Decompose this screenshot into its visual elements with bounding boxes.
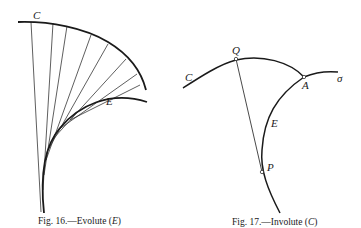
label-e: E [270, 117, 278, 129]
point-p [260, 170, 263, 173]
tangent-line-qp [236, 59, 262, 172]
label-c: C [185, 71, 193, 83]
caption-fig17: Fig. 17.—Involute (C) [232, 217, 318, 228]
point-q [234, 57, 237, 60]
curve-c [18, 22, 146, 90]
normal-lines [31, 22, 140, 212]
curve-e-sigma [262, 72, 338, 213]
label-q: Q [232, 44, 240, 56]
label-a: A [301, 79, 309, 91]
figure-canvas: C E Fig. 16.—Evolute (E) Q C A σ E P Fig… [0, 0, 361, 228]
label-e: E [105, 95, 113, 107]
figure-16-evolute: C E Fig. 16.—Evolute (E) [18, 9, 147, 227]
figure-17-involute: Q C A σ E P Fig. 17.—Involute (C) [183, 44, 343, 228]
label-p: P [266, 161, 274, 173]
curve-e-evolute [43, 98, 147, 213]
label-sigma: σ [337, 72, 343, 84]
caption-fig16: Fig. 16.—Evolute (E) [38, 216, 121, 227]
curve-c-involute [183, 58, 304, 88]
label-c: C [33, 9, 41, 21]
